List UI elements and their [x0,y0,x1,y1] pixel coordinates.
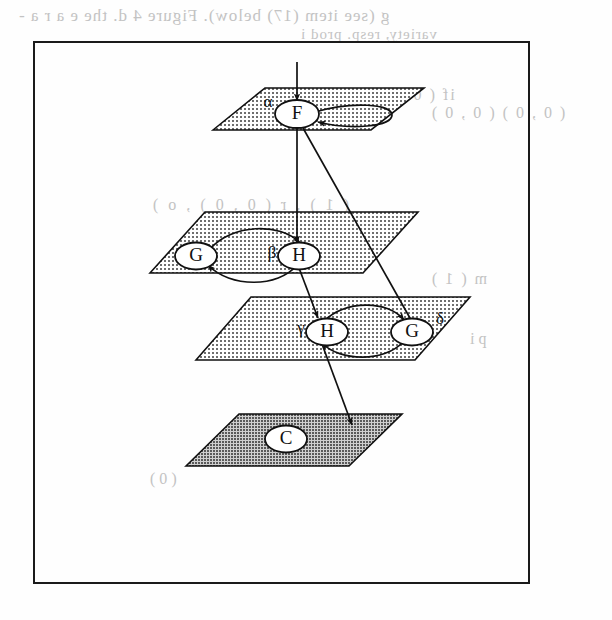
node-g-lower-label: G [405,320,419,341]
node-g-lower-greek-label: δ [436,309,444,328]
node-g-upper-label: G [189,244,203,265]
node-h-upper-greek-label: β [268,243,277,262]
node-f[interactable]: F [275,100,319,128]
node-h-upper[interactable]: H [278,243,320,270]
node-h-upper-label: H [292,244,306,265]
node-c-label: C [280,427,293,448]
node-g-upper[interactable]: G [175,243,217,270]
node-c[interactable]: C [265,426,307,453]
node-h-lower[interactable]: H [306,319,348,346]
node-h-lower-label: H [320,320,334,341]
node-f-label: F [292,102,303,123]
node-h-lower-greek-label: γ [296,318,305,337]
node-f-greek-label: α [264,92,273,111]
layered-plane-diagram: F α G H β H γ G δ C [0,0,612,620]
node-g-lower[interactable]: G [391,319,433,346]
figure-stage: g (see item (17) below). Figure 4 d. the… [0,0,612,620]
